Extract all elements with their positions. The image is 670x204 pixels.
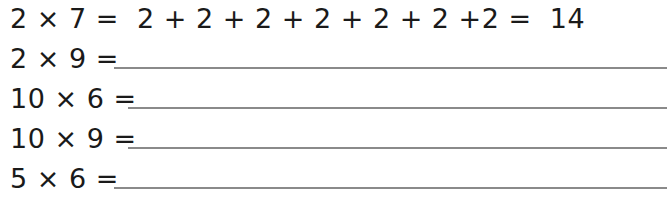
problem-row: 10 × 9 = xyxy=(10,122,137,156)
problem-row: 2 × 9 = xyxy=(10,42,119,76)
problem-expression: 10 × 6 = xyxy=(10,82,137,116)
example-row: 2 × 7 = 2 + 2 + 2 + 2 + 2 + 2 +2 = 14 xyxy=(10,2,585,36)
answer-line[interactable] xyxy=(128,147,667,149)
answer-line[interactable] xyxy=(114,187,667,189)
example-expression: 2 × 7 = 2 + 2 + 2 + 2 + 2 + 2 +2 = 14 xyxy=(10,2,585,36)
problem-expression: 10 × 9 = xyxy=(10,122,137,156)
problem-expression: 2 × 9 = xyxy=(10,42,119,76)
answer-line[interactable] xyxy=(128,107,667,109)
answer-line[interactable] xyxy=(114,67,667,69)
problem-row: 10 × 6 = xyxy=(10,82,137,116)
problem-row: 5 × 6 = xyxy=(10,162,119,196)
problem-expression: 5 × 6 = xyxy=(10,162,119,196)
